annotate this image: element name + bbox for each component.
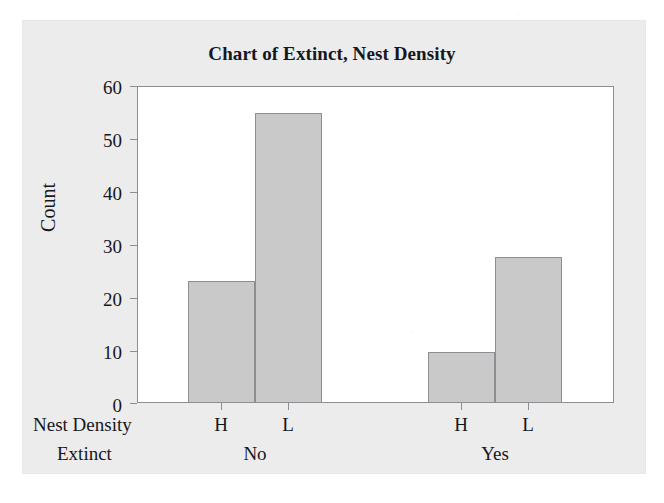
axis-row-label-extinct: Extinct <box>57 443 112 465</box>
y-tick-label-30: 30 <box>80 237 122 256</box>
y-tick-mark-10 <box>130 351 137 352</box>
y-tick-mark-40 <box>130 192 137 193</box>
x-tick-mark-2 <box>288 403 289 410</box>
y-tick-label-60: 60 <box>80 78 122 97</box>
chart-figure: Chart of Extinct, Nest Density Count 60 … <box>0 0 664 503</box>
y-tick-mark-60 <box>130 86 137 87</box>
y-tick-mark-0 <box>130 403 137 404</box>
x-cat-label-yes-l: L <box>522 414 534 436</box>
x-cat-label-yes-h: H <box>454 414 468 436</box>
y-tick-mark-30 <box>130 245 137 246</box>
x-group-label-no: No <box>243 443 266 465</box>
y-tick-label-40: 40 <box>80 184 122 203</box>
y-tick-label-10: 10 <box>80 343 122 362</box>
x-cat-label-no-h: H <box>214 414 228 436</box>
chart-title: Chart of Extinct, Nest Density <box>0 43 664 65</box>
y-tick-label-20: 20 <box>80 290 122 309</box>
bar-yes-l <box>495 257 562 403</box>
y-tick-mark-50 <box>130 139 137 140</box>
y-axis-title: Count <box>37 153 60 263</box>
x-tick-mark-1 <box>221 403 222 410</box>
y-tick-mark-20 <box>130 298 137 299</box>
bar-yes-h <box>428 352 495 403</box>
axis-row-label-nest-density: Nest Density <box>33 414 132 436</box>
x-group-label-yes: Yes <box>481 443 509 465</box>
x-tick-mark-4 <box>528 403 529 410</box>
y-tick-label-50: 50 <box>80 131 122 150</box>
bar-no-h <box>188 281 255 403</box>
bar-no-l <box>255 113 322 403</box>
x-tick-mark-3 <box>461 403 462 410</box>
x-cat-label-no-l: L <box>282 414 294 436</box>
y-tick-label-0: 0 <box>80 396 122 415</box>
